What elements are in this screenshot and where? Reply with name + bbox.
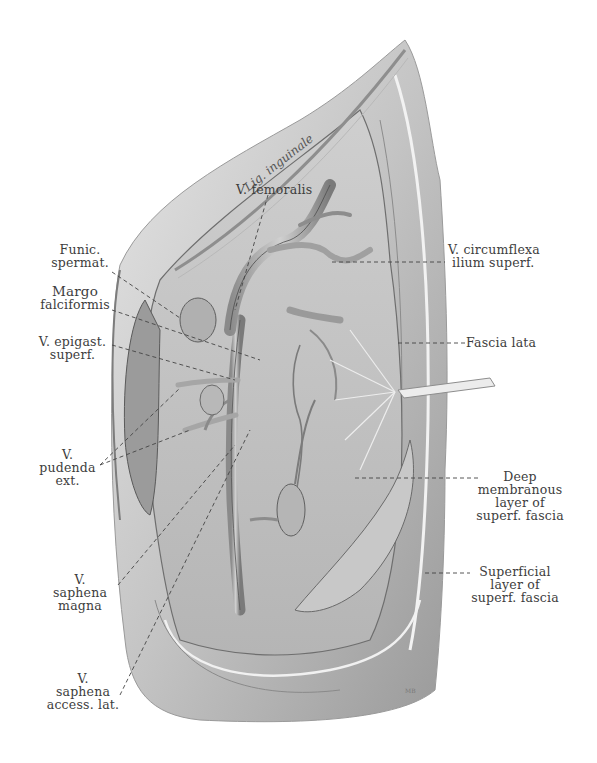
label-v-circumflexa-ilium-superf: V. circumflexa ilium superf. <box>448 243 540 269</box>
label-line: falciformis <box>30 298 120 311</box>
label-v-epigast-superf: V. epigast. superf. <box>30 335 115 361</box>
label-text: V. femoralis <box>236 183 312 196</box>
label-superficial-layer: Superficial layer of superf. fascia <box>460 565 570 604</box>
label-v-femoralis: V. femoralis <box>236 183 312 196</box>
label-text: Fascia lata <box>466 336 536 349</box>
label-margo-falciformis: Margo falciformis <box>30 285 120 311</box>
label-line: superf. <box>30 348 115 361</box>
anatomical-figure: Lig. inguinale V. femoralis Funic. sperm… <box>0 0 597 763</box>
label-line: ext. <box>30 474 105 487</box>
thigh-dissection-drawing <box>0 0 597 763</box>
label-v-saphena-magna: V. saphena magna <box>40 573 120 612</box>
label-line: superf. fascia <box>460 591 570 604</box>
lymph-node <box>277 484 305 536</box>
label-line: spermat. <box>45 256 115 269</box>
label-deep-membranous-layer: Deep membranous layer of superf. fascia <box>465 470 575 522</box>
label-line: superf. fascia <box>465 509 575 522</box>
label-v-saphena-access-lat: V. saphena access. lat. <box>38 672 128 711</box>
label-line: magna <box>40 599 120 612</box>
label-line: access. lat. <box>38 698 128 711</box>
artist-signature: MB <box>405 687 416 694</box>
label-fascia-lata: Fascia lata <box>466 336 536 349</box>
label-v-pudenda-ext: V. pudenda ext. <box>30 448 105 487</box>
spermatic-cord <box>180 298 216 342</box>
label-line: ilium superf. <box>448 256 540 269</box>
label-funic-spermat: Funic. spermat. <box>45 243 115 269</box>
